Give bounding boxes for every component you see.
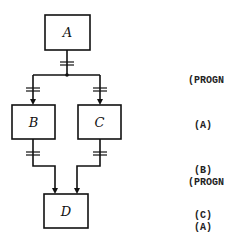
code-line: (A) <box>188 118 224 133</box>
edge-c-d <box>77 139 100 190</box>
code-block-2: (PROGN (A) (C) (B) (D)) <box>188 145 224 237</box>
node-b-label: B <box>28 115 39 130</box>
node-c-label: C <box>95 115 105 130</box>
code-line: (PROGN <box>188 175 224 190</box>
junction-dot <box>65 73 69 77</box>
edge-b-d <box>33 139 55 190</box>
code-line: (A) <box>188 220 224 235</box>
node-a-label: A <box>62 25 72 40</box>
node-d-label: D <box>60 204 72 219</box>
code-line: (PROGN <box>188 73 224 88</box>
